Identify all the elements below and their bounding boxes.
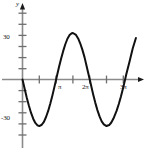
y-axis-tick-label-minus-30: -30 (1, 115, 10, 122)
y-axis-tick-label-30: 30 (3, 34, 10, 41)
x-axis-arrowhead (138, 77, 144, 82)
y-axis-arrowhead (20, 3, 25, 10)
x-axis-tick-label-2pi: 2π (82, 84, 89, 91)
plot-area (0, 0, 145, 153)
sine-curve-figure: 30 -30 π 2π 3π y (0, 0, 145, 153)
x-axis-tick-label-3pi: 3π (120, 84, 127, 91)
x-axis-tick-label-pi: π (58, 84, 61, 91)
y-axis-name-label: y (16, 1, 19, 8)
